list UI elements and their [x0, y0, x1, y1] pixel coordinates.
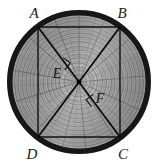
label-f: F: [95, 91, 105, 106]
label-b: B: [117, 5, 126, 21]
geometry-figure: A B C D E F: [0, 0, 160, 166]
center-point: [77, 80, 82, 85]
label-a: A: [28, 5, 39, 21]
label-d: D: [26, 146, 38, 162]
figure-canvas: A B C D E F: [0, 0, 160, 166]
label-e: E: [52, 66, 62, 81]
label-c: C: [118, 146, 129, 162]
